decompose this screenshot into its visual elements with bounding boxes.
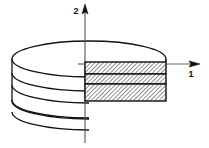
axis-1-arrowhead bbox=[189, 61, 200, 67]
cross-section-band-middle bbox=[85, 74, 166, 84]
cross-section-band-bottom bbox=[85, 84, 166, 101]
axis-2-label: 2 bbox=[73, 6, 78, 16]
axis-1-label: 1 bbox=[188, 69, 193, 79]
cross-section-band-top bbox=[85, 62, 166, 74]
layered-disk-diagram: 1 2 bbox=[0, 0, 209, 148]
figure-container: 1 2 bbox=[0, 0, 209, 148]
cross-section bbox=[85, 62, 166, 101]
